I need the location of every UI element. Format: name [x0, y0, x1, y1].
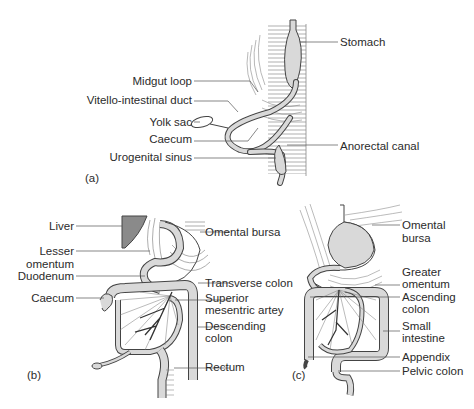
label-appendix: Appendix: [402, 351, 450, 363]
label-superior-mesentric-artery-2: mesentric artey: [205, 304, 284, 316]
label-pelvic-colon: Pelvic colon: [402, 365, 463, 377]
liver-shape: [122, 216, 147, 248]
panel-a-drawing: [190, 20, 338, 185]
label-omental-bursa-c-1: Omental: [402, 219, 445, 231]
label-small-intestine-1: Small: [402, 320, 431, 332]
label-duodenum: Duodenum: [18, 270, 74, 282]
label-small-intestine-2: intestine: [402, 332, 445, 344]
caption-b: (b): [27, 369, 41, 381]
label-rectum: Rectum: [205, 361, 245, 373]
label-caecum-b: Caecum: [31, 292, 74, 304]
label-superior-mesentric-artery-1: Superior: [205, 292, 248, 304]
label-urogenital-sinus: Urogenital sinus: [110, 151, 192, 163]
label-yolk-sac: Yolk sac: [150, 116, 192, 128]
label-descending-colon-1: Descending: [205, 320, 266, 332]
stomach-shape-c: [328, 222, 374, 268]
embryology-diagram: [0, 0, 474, 409]
label-greater-omentum-2: omentum: [402, 278, 450, 290]
label-ascending-colon-2: colon: [402, 303, 430, 315]
label-anorectal-canal: Anorectal canal: [340, 140, 419, 152]
label-midgut-loop: Midgut loop: [133, 75, 192, 87]
label-omental-bursa-c-2: bursa: [402, 232, 431, 244]
label-lesser-omentum-2: omentum: [26, 258, 74, 270]
label-caecum-a: Caecum: [149, 133, 192, 145]
label-stomach: Stomach: [340, 36, 385, 48]
label-vitello-intestinal-duct: Vitello-intestinal duct: [87, 94, 192, 106]
label-greater-omentum-1: Greater: [402, 266, 441, 278]
caption-c: (c): [292, 369, 305, 381]
label-descending-colon-2: colon: [205, 332, 233, 344]
caption-a: (a): [85, 172, 99, 184]
label-liver: Liver: [49, 220, 74, 232]
label-transverse-colon: Transverse colon: [205, 277, 293, 289]
label-ascending-colon-1: Ascending: [402, 291, 456, 303]
label-omental-bursa-b: Omental bursa: [205, 226, 280, 238]
label-lesser-omentum-1: Lesser: [39, 245, 74, 257]
yolk-sac-shape: [190, 114, 214, 129]
panel-c-drawing: [300, 204, 402, 395]
